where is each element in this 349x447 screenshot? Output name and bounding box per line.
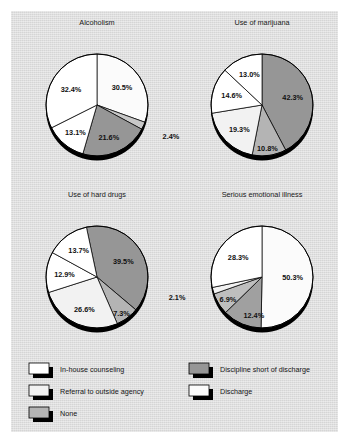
pie-slice-label: 13.7% (68, 246, 89, 255)
legend-label: Referral to outside agency (60, 387, 144, 396)
legend-label: Discipline short of discharge (220, 365, 310, 374)
legend-item-discharge[interactable]: Discharge (189, 385, 252, 400)
legend-label: In-house counseling (60, 365, 124, 374)
pie-slice-label: 12.9% (54, 270, 75, 279)
pie-chart-4: Serious emotional illness50.3%12.4%6.9%2… (169, 190, 313, 333)
pie-slice-label: 7.3% (113, 309, 130, 318)
legend-label: Discharge (220, 387, 252, 396)
pie-slice-label: 32.4% (61, 85, 82, 94)
legend-item-none[interactable]: None (29, 407, 77, 422)
pie-slice-label: 39.5% (113, 257, 134, 266)
legend-label: None (60, 409, 77, 418)
legend-swatch (189, 363, 209, 374)
pie-slice-label: 10.8% (257, 144, 278, 153)
pie-slice-label: 2.4% (163, 132, 180, 141)
pie-title: Alcoholism (79, 18, 114, 27)
pie-slice-label: 50.3% (282, 273, 303, 282)
pie-title: Use of marijuana (234, 18, 290, 27)
legend-swatch (29, 363, 49, 374)
pie-chart-3: Use of hard drugs39.5%7.3%26.6%12.9%13.7… (46, 190, 148, 333)
pie-title: Use of hard drugs (68, 190, 126, 199)
legend-swatch (189, 385, 209, 396)
pie-slice-label: 6.9% (220, 295, 237, 304)
legend-item-referral_to_outside_agency[interactable]: Referral to outside agency (29, 385, 144, 400)
pie-slice-label: 13.1% (65, 128, 86, 137)
pie-slice-label: 42.3% (282, 93, 303, 102)
legend-swatch (29, 407, 49, 418)
pie-slice-label: 19.3% (229, 125, 250, 134)
pie-charts-layer: Alcoholism30.5%2.4%21.6%13.1%32.4%Use of… (46, 18, 313, 333)
pie-title: Serious emotional illness (222, 190, 303, 199)
pie-slice-label: 12.4% (243, 311, 264, 320)
pie-slice-label: 13.0% (239, 70, 260, 79)
pie-chart-1: Alcoholism30.5%2.4%21.6%13.1%32.4% (46, 18, 180, 161)
pie-slice-label: 14.6% (221, 91, 242, 100)
pie-slice-label: 26.6% (74, 305, 95, 314)
legend-swatch (29, 385, 49, 396)
legend-item-in_house_counseling[interactable]: In-house counseling (29, 363, 124, 378)
pie-chart-2: Use of marijuana42.3%10.8%19.3%14.6%13.0… (211, 18, 313, 161)
legend: In-house counselingDiscipline short of d… (29, 363, 310, 422)
pie-slice-label: 21.6% (98, 133, 119, 142)
pie-slice-label: 2.1% (169, 293, 186, 302)
pie-slice-label: 30.5% (112, 83, 133, 92)
legend-item-discipline_short_of_discharge[interactable]: Discipline short of discharge (189, 363, 310, 378)
pie-chart-canvas: Alcoholism30.5%2.4%21.6%13.1%32.4%Use of… (0, 0, 349, 447)
pie-slice-label: 28.3% (228, 253, 249, 262)
figure-root: Alcoholism30.5%2.4%21.6%13.1%32.4%Use of… (0, 0, 349, 447)
